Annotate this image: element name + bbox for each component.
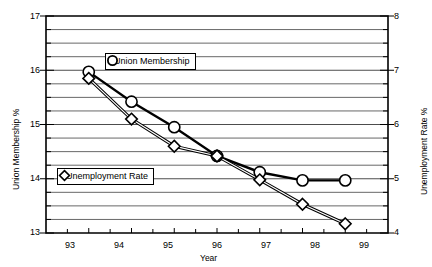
x-axis-tick-93: 93 (56, 241, 84, 250)
x-axis-tick-94: 94 (105, 241, 133, 250)
y-axis-left-title: Union Membership % (12, 109, 21, 190)
y-axis-right-tick-8: 8 (394, 12, 414, 21)
y-axis-right-tick-6: 6 (394, 120, 414, 129)
legend-item-union-membership[interactable]: Union Membership (105, 53, 196, 70)
diamond-marker-icon (58, 169, 71, 182)
legend-item-unemployment-rate[interactable]: Unemployment Rate (57, 168, 154, 185)
x-axis-tick-97: 97 (252, 241, 280, 250)
y-axis-right-tick-7: 7 (394, 66, 414, 75)
x-axis-tick-95: 95 (154, 241, 182, 250)
y-axis-left-tick-17: 17 (16, 12, 40, 21)
x-axis-tick-96: 96 (203, 241, 231, 250)
legend-label-unemployment-rate: Unemployment Rate (66, 172, 148, 181)
x-axis-tick-98: 98 (301, 241, 329, 250)
data-point-union-membership (169, 122, 180, 133)
data-point-union-membership (340, 175, 351, 186)
y-axis-left-tick-16: 16 (16, 66, 40, 75)
y-axis-right-tick-5: 5 (394, 174, 414, 183)
y-axis-right-title: Unemployment Rate % (420, 108, 429, 195)
y-axis-left-tick-13: 13 (16, 228, 40, 237)
x-axis-title: Year (200, 254, 217, 263)
chart-plot-area (0, 0, 432, 267)
data-point-union-membership (126, 96, 137, 107)
chart-container: 17 16 15 14 13 8 7 6 5 4 93 94 95 96 97 … (0, 0, 432, 267)
circle-marker-icon (106, 54, 119, 67)
legend-label-union-membership: Union Membership (114, 57, 190, 66)
data-point-union-membership (297, 175, 308, 186)
y-axis-right-tick-4: 4 (394, 228, 414, 237)
x-axis-tick-99: 99 (350, 241, 378, 250)
